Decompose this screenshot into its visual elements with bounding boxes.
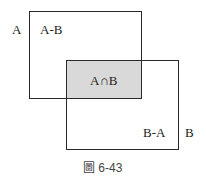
set-a-label: A bbox=[12, 23, 21, 36]
b-minus-a-label: B-A bbox=[143, 126, 165, 139]
figure-caption: 圖 6-43 bbox=[83, 158, 122, 175]
intersection-label: A∩B bbox=[90, 74, 117, 87]
set-b-label: B bbox=[185, 126, 194, 139]
a-minus-b-label: A-B bbox=[40, 23, 62, 36]
